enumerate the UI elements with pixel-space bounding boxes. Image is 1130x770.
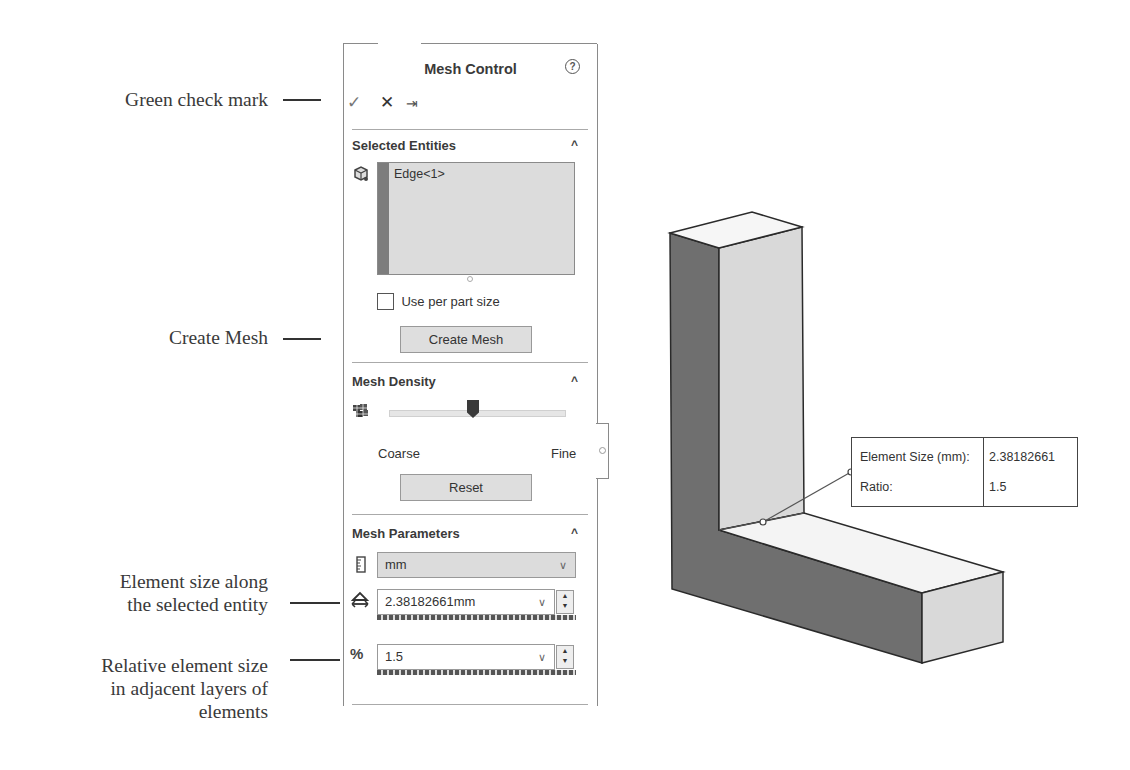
mesh-callout-tooltip[interactable]: Element Size (mm): 2.38182661 Ratio: 1.5 (851, 437, 1078, 507)
edge-handle-icon (760, 519, 766, 525)
tooltip-divider (983, 438, 984, 506)
l-bracket-model[interactable] (0, 0, 1130, 770)
tooltip-value: 2.38182661 (989, 450, 1055, 464)
model-vertical-face (719, 227, 804, 530)
tooltip-key: Ratio: (860, 480, 893, 494)
tooltip-value: 1.5 (989, 480, 1006, 494)
tooltip-key: Element Size (mm): (860, 450, 970, 464)
